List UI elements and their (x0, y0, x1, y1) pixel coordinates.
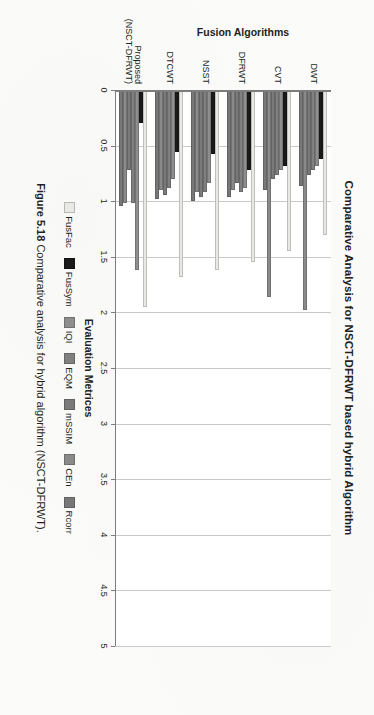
category-label: DTCWT (164, 51, 173, 84)
bar-cen-proposed-nsct-dfrwt (123, 90, 127, 203)
value-axis-tick-label: 1 (99, 198, 109, 203)
bar-eqm-proposed-nsct-dfrwt (131, 90, 135, 203)
bar-cen-dtcwt (159, 90, 163, 190)
bar-eqm-dwt (311, 90, 315, 170)
gridline (115, 646, 331, 647)
category-axis-line (115, 90, 116, 646)
category-label: Proposed(NSCT-DFRWT) (124, 18, 143, 83)
bar-rcorr-dwt (299, 90, 303, 186)
bar-cen-cvt (267, 90, 271, 297)
legend-label: EQM (64, 367, 75, 389)
bar-rcorr-cvt (263, 90, 267, 190)
legend-label: FusFac (64, 216, 75, 248)
legend-item-mssim: mSSIM (64, 398, 75, 443)
bar-fussym-dtcwt (175, 90, 179, 152)
gridline (115, 312, 331, 313)
gridline (115, 423, 331, 424)
bar-mssim-cvt (271, 90, 275, 179)
figure-caption: Figure 5.18 Comparative analysis for hyb… (35, 26, 47, 690)
legend-item-iqi: IQI (64, 316, 75, 343)
value-axis-tick-label: 0 (99, 87, 109, 92)
value-axis-title: Evaluation Metrices (83, 90, 95, 646)
value-axis-tick-label: 3 (99, 421, 109, 426)
bar-fusfac-dwt (323, 90, 327, 235)
value-axis-tick-label: 2 (99, 309, 109, 314)
tick-mark (111, 256, 115, 257)
value-axis-tick-label: 1.5 (99, 250, 109, 263)
legend-label: CEn (64, 468, 75, 486)
legend-swatch-icon (64, 316, 75, 327)
bar-iqi-proposed-nsct-dfrwt (135, 90, 139, 270)
bar-eqm-nsst (203, 90, 207, 192)
tick-mark (111, 423, 115, 424)
gridline (115, 256, 331, 257)
bar-cen-nsst (195, 90, 199, 192)
caption-text: Comparative analysis for hybrid algorith… (35, 244, 47, 532)
bar-mssim-dfrwt (235, 90, 239, 183)
legend-item-cen: CEn (64, 454, 75, 486)
plot-region: 00.511.522.533.544.55 DWTCVTDFRWTNSSTDTC… (115, 90, 331, 646)
value-axis-tick-label: 3.5 (99, 472, 109, 485)
tick-mark (111, 646, 115, 647)
bar-iqi-dtcwt (171, 90, 175, 179)
legend-label: IQI (64, 330, 75, 343)
legend-swatch-icon (64, 454, 75, 465)
bar-mssim-nsst (199, 90, 203, 197)
gridline (115, 201, 331, 202)
value-axis-tick-label: 4 (99, 532, 109, 537)
bar-rcorr-proposed-nsct-dfrwt (119, 90, 123, 206)
value-axis-tick-label: 0.5 (99, 139, 109, 152)
legend-label: Rcorr (64, 510, 75, 533)
legend-item-eqm: EQM (64, 353, 75, 389)
bar-fussym-dfrwt (247, 90, 251, 170)
bar-iqi-nsst (207, 90, 211, 183)
bar-iqi-dfrwt (243, 90, 247, 188)
bar-eqm-cvt (275, 90, 279, 175)
gridline (115, 534, 331, 535)
legend-swatch-icon (64, 398, 75, 409)
bar-rcorr-dfrwt (227, 90, 231, 197)
legend-swatch-icon (64, 496, 75, 507)
value-axis-line (115, 90, 331, 92)
bar-fussym-dwt (319, 90, 323, 159)
tick-mark (111, 201, 115, 202)
bar-mssim-dwt (307, 90, 311, 175)
bar-fusfac-dfrwt (251, 90, 255, 262)
bar-fussym-nsst (211, 90, 215, 154)
gridline (115, 590, 331, 591)
tick-mark (111, 90, 115, 91)
legend-item-rcorr: Rcorr (64, 496, 75, 533)
category-label: DFRWT (236, 51, 245, 83)
bar-rcorr-dtcwt (155, 90, 159, 199)
chart-legend: FusFacFusSymIQIEQMmSSIMCEnRcorr (64, 90, 75, 646)
bar-mssim-proposed-nsct-dfrwt (127, 90, 131, 170)
category-axis-title: Fusion Algorithms (163, 26, 323, 38)
scanned-page: Comparative Analysis for NSCT-DFRWT base… (0, 0, 374, 715)
bar-fusfac-cvt (287, 90, 291, 251)
bar-eqm-dtcwt (167, 90, 171, 188)
bar-iqi-cvt (279, 90, 283, 170)
bar-fusfac-proposed-nsct-dfrwt (143, 90, 147, 307)
category-label: DWT (308, 63, 317, 84)
tick-mark (111, 145, 115, 146)
bar-eqm-dfrwt (239, 90, 243, 192)
bar-cen-dfrwt (231, 90, 235, 190)
legend-item-fussym: FusSym (64, 257, 75, 306)
value-axis-tick-label: 2.5 (99, 361, 109, 374)
tick-mark (111, 534, 115, 535)
bar-fusfac-nsst (215, 90, 219, 270)
tick-mark (111, 590, 115, 591)
legend-item-fusfac: FusFac (64, 202, 75, 248)
legend-label: FusSym (64, 271, 75, 306)
category-label: NSST (200, 59, 209, 83)
figure-container: Comparative Analysis for NSCT-DFRWT base… (17, 26, 357, 690)
value-axis-tick-label: 4.5 (99, 584, 109, 597)
chart-title: Comparative Analysis for NSCT-DFRWT base… (343, 26, 355, 690)
bar-fusfac-dtcwt (179, 90, 183, 277)
rotated-figure-wrapper: Comparative Analysis for NSCT-DFRWT base… (17, 26, 357, 690)
legend-swatch-icon (64, 257, 75, 268)
legend-swatch-icon (64, 202, 75, 213)
gridline (115, 479, 331, 480)
tick-mark (111, 312, 115, 313)
gridline (115, 368, 331, 369)
